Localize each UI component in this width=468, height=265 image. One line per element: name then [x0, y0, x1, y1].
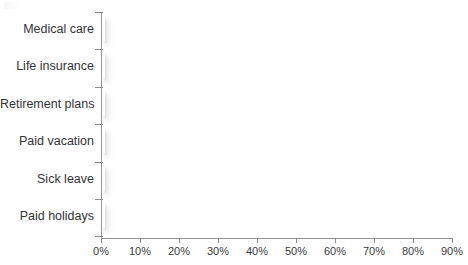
x-axis-tick [335, 238, 336, 243]
x-axis-tick [218, 238, 219, 243]
bar[interactable] [103, 16, 105, 42]
x-axis-tick [140, 238, 141, 243]
bar[interactable] [103, 166, 105, 192]
category-label: Retirement plans [0, 97, 94, 111]
bar-chart: 0%10%20%30%40%50%60%70%80%90% Medical ca… [0, 0, 468, 265]
bar[interactable] [103, 128, 105, 154]
y-axis-tick [95, 236, 103, 237]
y-axis-tick [95, 87, 103, 88]
plot-area: 0%10%20%30%40%50%60%70%80%90% Medical ca… [0, 0, 468, 265]
x-axis-tick-label: 80% [396, 245, 430, 257]
y-axis-tick [95, 12, 103, 13]
x-axis-tick-label: 20% [162, 245, 196, 257]
bar-row [103, 91, 396, 117]
bar[interactable] [103, 53, 105, 79]
bar-row [103, 166, 388, 192]
bar-row [103, 128, 419, 154]
x-axis-tick [374, 238, 375, 243]
x-axis-tick [179, 238, 180, 243]
x-axis-tick-label: 0% [84, 245, 118, 257]
x-axis-tick-label: 40% [240, 245, 274, 257]
bar-row [103, 16, 423, 42]
y-axis-tick [95, 124, 103, 125]
x-axis-tick-label: 10% [123, 245, 157, 257]
category-label: Medical care [0, 22, 94, 36]
x-axis-tick [413, 238, 414, 243]
x-axis-tick [296, 238, 297, 243]
x-axis-tick [452, 238, 453, 243]
category-label: Paid holidays [0, 209, 94, 223]
bar[interactable] [103, 203, 105, 229]
bar-row [103, 203, 419, 229]
y-axis-tick [95, 199, 103, 200]
x-axis-line [101, 238, 452, 239]
bar[interactable] [103, 91, 105, 117]
x-axis-tick-label: 70% [357, 245, 391, 257]
x-axis-tick-label: 90% [435, 245, 468, 257]
y-axis-tick [95, 49, 103, 50]
y-axis-tick [95, 162, 103, 163]
bar-row [103, 53, 378, 79]
category-label: Life insurance [0, 59, 94, 73]
y-axis-line [101, 12, 102, 238]
x-axis-tick-label: 60% [318, 245, 352, 257]
x-axis-tick-label: 30% [201, 245, 235, 257]
category-label: Paid vacation [0, 134, 94, 148]
x-axis-tick-label: 50% [279, 245, 313, 257]
category-label: Sick leave [0, 172, 94, 186]
x-axis-tick [257, 238, 258, 243]
x-axis-tick [101, 238, 102, 243]
